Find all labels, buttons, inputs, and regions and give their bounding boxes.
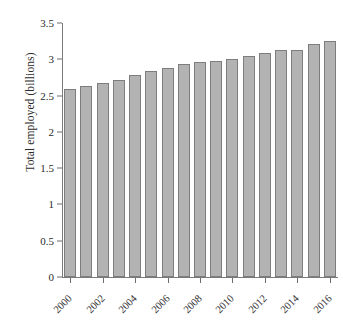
bar	[162, 68, 174, 277]
y-tick-label: 2	[20, 126, 54, 138]
x-tick-label: 2008	[164, 293, 204, 322]
bar	[97, 83, 109, 277]
x-tick-label: 2010	[196, 293, 236, 322]
x-tick-label: 2016	[293, 293, 333, 322]
x-tick-label: 2004	[99, 293, 139, 322]
bar	[194, 62, 206, 277]
x-tick-mark	[103, 278, 104, 283]
bar	[178, 64, 190, 277]
x-tick-mark	[70, 278, 71, 283]
y-tick-label: 0.5	[20, 235, 54, 247]
bar	[145, 71, 157, 277]
y-tick-label: 2.5	[20, 90, 54, 102]
bar	[113, 80, 125, 277]
x-tick-label: 2006	[131, 293, 171, 322]
bar	[129, 75, 141, 277]
x-tick-mark	[135, 278, 136, 283]
y-tick-label: 3.5	[20, 17, 54, 29]
bar	[226, 59, 238, 277]
x-tick-mark	[265, 278, 266, 283]
y-tick-label: 0	[20, 271, 54, 283]
bar	[308, 44, 320, 277]
x-tick-mark	[330, 278, 331, 283]
y-tick-label: 1	[20, 198, 54, 210]
bar-chart: Total employed (billions) 00.511.522.533…	[0, 0, 343, 322]
bar	[324, 41, 336, 277]
x-tick-label: 2002	[66, 293, 106, 322]
bar	[259, 53, 271, 277]
x-tick-label: 2012	[229, 293, 269, 322]
y-axis-title: Total employed (billions)	[24, 2, 36, 222]
x-tick-mark	[168, 278, 169, 283]
bar	[243, 56, 255, 277]
bar	[275, 50, 287, 277]
y-tick-label: 3	[20, 53, 54, 65]
y-tick-label: 1.5	[20, 162, 54, 174]
x-tick-label: 2014	[261, 293, 301, 322]
bar	[80, 86, 92, 277]
bar	[291, 50, 303, 277]
bar	[210, 61, 222, 277]
x-tick-mark	[200, 278, 201, 283]
x-tick-mark	[232, 278, 233, 283]
x-tick-label: 2000	[34, 293, 74, 322]
bar	[64, 89, 76, 277]
x-tick-mark	[297, 278, 298, 283]
y-axis-line	[62, 23, 63, 278]
